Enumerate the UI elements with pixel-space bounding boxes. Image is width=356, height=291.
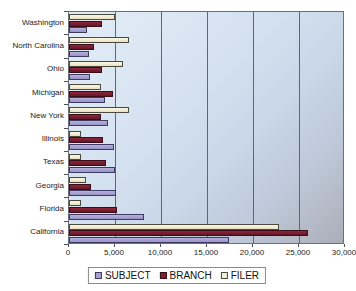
x-axis-label: 30,000 bbox=[332, 248, 356, 257]
bar-subject-north-carolina bbox=[69, 51, 89, 57]
legend-swatch-filer bbox=[221, 272, 228, 279]
x-axis-label: 5,000 bbox=[104, 248, 124, 257]
bar-filer-illinois bbox=[69, 131, 81, 137]
x-axis-label: 25,000 bbox=[286, 248, 310, 257]
y-axis-tick bbox=[64, 128, 68, 129]
chart-legend: SUBJECTBRANCHFILER bbox=[88, 267, 266, 284]
y-axis-label-california: California bbox=[0, 227, 64, 236]
category-group bbox=[69, 129, 343, 152]
bar-subject-illinois bbox=[69, 144, 114, 150]
bar-filer-georgia bbox=[69, 177, 86, 183]
bar-subject-ohio bbox=[69, 74, 90, 80]
bar-filer-north-carolina bbox=[69, 37, 129, 43]
bar-branch-illinois bbox=[69, 137, 103, 143]
bar-subject-washington bbox=[69, 27, 87, 33]
bar-branch-texas bbox=[69, 160, 106, 166]
legend-item-subject: SUBJECT bbox=[95, 270, 151, 281]
bar-subject-texas bbox=[69, 167, 115, 173]
category-group bbox=[69, 35, 343, 58]
category-group bbox=[69, 59, 343, 82]
bar-subject-california bbox=[69, 237, 229, 243]
bar-filer-florida bbox=[69, 200, 81, 206]
y-axis-label-ohio: Ohio bbox=[0, 64, 64, 73]
bar-branch-florida bbox=[69, 207, 117, 213]
bar-subject-georgia bbox=[69, 190, 116, 196]
y-axis-tick bbox=[64, 81, 68, 82]
bar-subject-new-york bbox=[69, 120, 108, 126]
bar-branch-michigan bbox=[69, 91, 113, 97]
x-axis-labels: 05,00010,00015,00020,00025,00030,000 bbox=[0, 246, 354, 260]
x-axis-label: 10,000 bbox=[148, 248, 172, 257]
y-axis-tick bbox=[64, 104, 68, 105]
y-axis-label-texas: Texas bbox=[0, 157, 64, 166]
bar-branch-new-york bbox=[69, 114, 101, 120]
y-axis-tick bbox=[64, 11, 68, 12]
category-group bbox=[69, 12, 343, 35]
y-axis-tick bbox=[64, 34, 68, 35]
category-group bbox=[69, 222, 343, 244]
category-group bbox=[69, 175, 343, 198]
y-axis-label-new-york: New York bbox=[0, 111, 64, 120]
x-axis-label: 0 bbox=[66, 248, 70, 257]
y-axis-label-georgia: Georgia bbox=[0, 181, 64, 190]
x-axis-label: 15,000 bbox=[194, 248, 218, 257]
legend-label: SUBJECT bbox=[105, 270, 151, 281]
bar-subject-michigan bbox=[69, 97, 105, 103]
plot-area bbox=[68, 11, 344, 244]
y-axis-tick bbox=[64, 151, 68, 152]
y-axis-label-north-carolina: North Carolina bbox=[0, 41, 64, 50]
bar-subject-florida bbox=[69, 214, 144, 220]
bar-branch-north-carolina bbox=[69, 44, 94, 50]
legend-swatch-branch bbox=[159, 272, 166, 279]
bar-filer-new-york bbox=[69, 107, 129, 113]
bar-filer-washington bbox=[69, 14, 115, 20]
legend-label: FILER bbox=[231, 270, 259, 281]
bar-filer-texas bbox=[69, 154, 81, 160]
bar-branch-ohio bbox=[69, 67, 102, 73]
y-axis-tick bbox=[64, 174, 68, 175]
y-axis-label-illinois: Illinois bbox=[0, 134, 64, 143]
y-axis-tick bbox=[64, 197, 68, 198]
bar-filer-california bbox=[69, 224, 279, 230]
bar-filer-michigan bbox=[69, 84, 101, 90]
y-axis-tick bbox=[64, 58, 68, 59]
category-group bbox=[69, 105, 343, 128]
legend-item-filer: FILER bbox=[221, 270, 259, 281]
bar-branch-washington bbox=[69, 21, 102, 27]
bar-filer-ohio bbox=[69, 61, 123, 67]
x-axis-label: 20,000 bbox=[240, 248, 264, 257]
category-group bbox=[69, 198, 343, 221]
bar-branch-georgia bbox=[69, 184, 91, 190]
category-group bbox=[69, 152, 343, 175]
legend-swatch-subject bbox=[95, 272, 102, 279]
y-axis-tick bbox=[64, 221, 68, 222]
y-axis-label-washington: Washington bbox=[0, 18, 64, 27]
category-group bbox=[69, 82, 343, 105]
y-axis-label-florida: Florida bbox=[0, 204, 64, 213]
y-axis-label-michigan: Michigan bbox=[0, 88, 64, 97]
legend-label: BRANCH bbox=[169, 270, 211, 281]
legend-item-branch: BRANCH bbox=[159, 270, 211, 281]
bar-branch-california bbox=[69, 230, 308, 236]
